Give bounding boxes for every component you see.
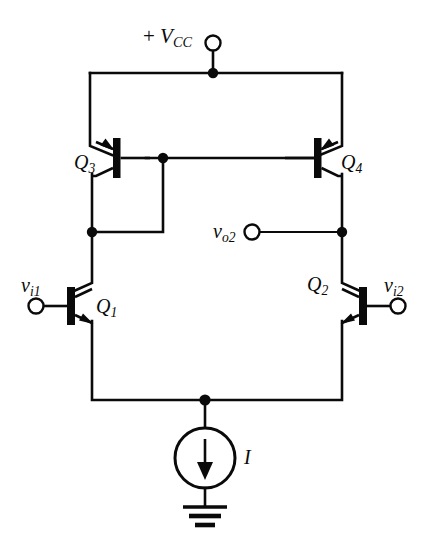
- transistor-q2[interactable]: [341, 287, 391, 325]
- q3-base-bar: [113, 138, 121, 178]
- supply-label: + VCC: [143, 26, 192, 47]
- right-collector-column: [337, 174, 360, 291]
- q3-diode-connect-wire: [92, 158, 163, 232]
- vi2-terminal-group: [391, 299, 406, 314]
- current-source-i[interactable]: [175, 428, 235, 506]
- q1-collector-wire: [74, 232, 92, 291]
- schematic-svg: [0, 0, 435, 539]
- top-supply-rail-group: [90, 73, 342, 155]
- q4-emitter-arrowhead: [320, 139, 334, 151]
- vo2-terminal-group: [245, 225, 339, 240]
- vi1-terminal-group: [29, 299, 44, 314]
- vi1-label: vi1: [21, 275, 40, 295]
- left-collector-column: [74, 174, 97, 291]
- ground-symbol: [183, 507, 227, 525]
- current-mirror-base-network: [92, 153, 318, 232]
- current-source-label: I: [244, 447, 251, 467]
- vi1-terminal-circle[interactable]: [29, 299, 44, 314]
- vcc-terminal-circle[interactable]: [206, 36, 221, 51]
- vo2-terminal-circle[interactable]: [245, 225, 260, 240]
- vi2-terminal-circle[interactable]: [391, 299, 406, 314]
- transistor-q3[interactable]: [92, 138, 150, 178]
- q1-emitter-tail-wire: [92, 321, 205, 400]
- q1-label: Q1: [96, 296, 117, 316]
- q4-label: Q4: [341, 152, 362, 172]
- q3-emitter-arrowhead: [101, 139, 115, 151]
- q2-base-bar: [359, 287, 367, 325]
- q4-collector-lead: [322, 168, 343, 176]
- transistor-q1[interactable]: [44, 287, 94, 325]
- tail-network: [92, 321, 342, 428]
- circuit-diagram-canvas: + VCC Q3 Q4 Q1 Q2 vi1 vi2 vo2 I: [0, 0, 435, 539]
- vo2-label: vo2: [213, 221, 235, 241]
- vi2-label: vi2: [384, 275, 403, 295]
- q2-label: Q2: [307, 274, 328, 294]
- q1-base-bar: [67, 287, 75, 325]
- q3-label: Q3: [74, 152, 95, 172]
- q2-collector-wire: [342, 232, 360, 291]
- q2-emitter-tail-wire: [205, 321, 342, 400]
